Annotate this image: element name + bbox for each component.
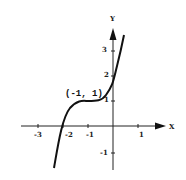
y-tick-label: 3 [102,45,107,54]
x-tick-label: 1 [139,130,144,139]
x-axis-label: X [169,122,175,131]
point-annotation: (-1, 1) [65,89,103,99]
x-tick-label: -2 [65,130,73,139]
x-axis: X -3 -2 -1 1 [21,122,175,139]
y-tick-label: 2 [104,70,109,79]
y-axis-arrow-icon [110,28,117,40]
y-axis-label: Y [109,14,116,23]
chart: X -3 -2 -1 1 Y 3 2 1 -1 (-1, 1) [0,0,186,180]
x-axis-arrow-icon [155,123,166,130]
x-tick-label: -3 [34,130,42,139]
y-tick-label: -1 [100,148,108,157]
x-tick-label: -1 [86,130,94,139]
